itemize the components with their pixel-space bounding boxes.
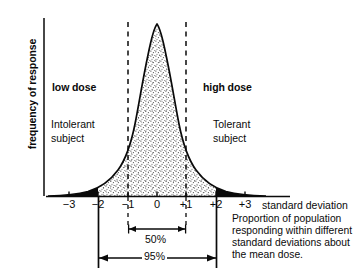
x-tick-label-zero: 0 <box>143 198 171 210</box>
x-tick-label-minus-3: −3 <box>55 198 83 210</box>
central-stippled-fill <box>98 0 216 200</box>
annotation-tolerant-subject-line1: Tolerant <box>213 119 250 131</box>
normal-distribution-figure: frequency of response low dose high dose… <box>0 0 364 276</box>
caption-line-3: standard deviations about <box>232 237 350 249</box>
x-tick-label-plus-3: +3 <box>231 198 259 210</box>
x-tick-label-minus-2: −2 <box>84 198 112 210</box>
annotation-low-dose: low dose <box>52 82 96 94</box>
annotation-intolerant-subject-line1: Intolerant <box>51 119 95 131</box>
ninety-five-percent-label: 95% <box>142 250 167 262</box>
caption-line-2: responding within different <box>232 225 352 237</box>
x-axis-title: standard deviation <box>262 199 348 211</box>
annotation-high-dose: high dose <box>203 82 252 94</box>
x-tick-label-minus-1: −1 <box>114 198 142 210</box>
fifty-percent-label: 50% <box>143 233 168 245</box>
left-tail-solid-fill <box>40 0 98 200</box>
x-tick-label-plus-1: +1 <box>172 198 200 210</box>
right-tail-solid-fill <box>216 0 276 200</box>
annotation-tolerant-subject-line2: subject <box>213 133 246 145</box>
caption-line-4: the mean dose. <box>232 249 303 261</box>
annotation-intolerant-subject-line2: subject <box>51 133 84 145</box>
caption-line-1: Proportion of population <box>232 213 341 225</box>
x-tick-label-plus-2: +2 <box>202 198 230 210</box>
y-axis-label: frequency of response <box>26 14 38 174</box>
